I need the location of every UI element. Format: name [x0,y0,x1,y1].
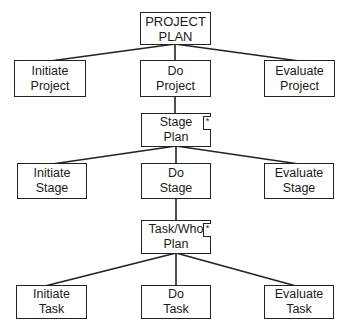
node-label: Project [156,79,195,94]
node-label: Initiate [34,166,71,181]
node-label: Project [280,79,319,94]
node-project-plan: PROJECT PLAN [140,12,211,45]
node-label: Plan [163,237,188,252]
node-evaluate-stage: Evaluate Stage [264,163,334,199]
node-label: PLAN [159,29,193,44]
node-label: Stage [283,181,316,196]
node-label: Initiate [32,64,69,79]
node-label: Do [168,64,184,79]
asterisk-marker-icon: * [203,116,211,130]
node-label: Task [286,302,312,317]
node-label: Evaluate [275,287,324,302]
node-label: Initiate [33,287,70,302]
node-do-stage: Do Stage [141,163,211,199]
node-label: Project [31,79,70,94]
node-label: Do [168,166,184,181]
node-label: Stage [160,115,193,130]
node-task-who-plan: Task/Who Plan * [141,220,211,254]
node-label: Plan [163,130,188,145]
node-label: Task/Who [149,222,204,237]
node-initiate-stage: Initiate Stage [17,163,87,199]
node-do-project: Do Project [140,60,211,97]
node-do-task: Do Task [141,285,211,319]
node-label: PROJECT [145,14,206,29]
node-initiate-project: Initiate Project [14,60,86,97]
node-label: Evaluate [275,64,324,79]
asterisk-marker-icon: * [203,223,211,237]
node-evaluate-task: Evaluate Task [264,285,334,319]
node-label: Stage [36,181,69,196]
node-stage-plan: Stage Plan * [141,113,211,147]
node-label: Stage [160,181,193,196]
node-initiate-task: Initiate Task [16,285,87,319]
node-label: Evaluate [275,166,324,181]
node-evaluate-project: Evaluate Project [264,60,335,97]
node-label: Task [163,302,189,317]
node-label: Do [168,287,184,302]
node-label: Task [39,302,65,317]
